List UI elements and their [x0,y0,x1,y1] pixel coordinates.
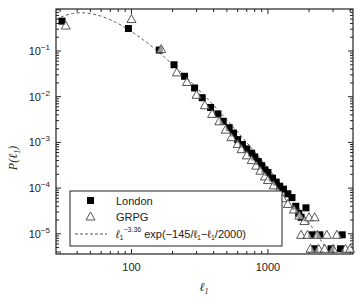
london-point-square-icon [288,194,295,201]
y-axis-title: P(ℓ1) [6,146,22,171]
y-tick-label: 10−5 [29,226,51,240]
legend: London GRPG ℓ1−3.36 exp(−145/ℓ1−ℓ1/2000) [70,191,282,246]
x-axis-title-sub: 1 [205,287,209,296]
london-point-square-icon [171,61,178,68]
london-point-square-icon [302,204,309,211]
y-tick-label: 10−4 [29,180,51,194]
london-point-square-icon [125,25,132,32]
legend-london-label: London [116,195,153,207]
legend-grpg-label: GRPG [116,211,148,223]
grpg-point-triangle-icon [322,230,331,238]
x-axis-title: ℓ1 [200,280,209,296]
grpg-point-triangle-icon [127,15,136,23]
y-tick-label: 10−3 [29,134,51,148]
x-tick-label: 100 [122,261,140,273]
x-tick-label: 1000 [256,261,280,273]
y-tick-label: 10−2 [29,89,51,103]
legend-london-marker-icon [87,197,94,204]
chart: 1001000 10−110−210−310−410−5 ℓ1 P(ℓ1) Lo… [0,0,364,301]
y-tick-label: 10−1 [29,43,51,57]
